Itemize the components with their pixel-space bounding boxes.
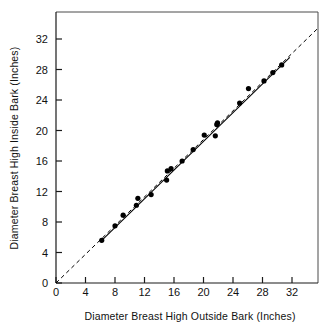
data-point [135,196,140,201]
x-axis-title: Diameter Breast High Outside Bark (Inche… [84,310,295,322]
data-point [191,147,196,152]
data-point [121,213,126,218]
data-point [202,132,207,137]
y-tick-label: 8 [42,216,48,228]
y-tick-label: 0 [42,277,48,289]
data-point [99,238,104,243]
data-point [261,78,266,83]
data-point [270,70,275,75]
chart-canvas: 0 4 8 12 16 20 24 28 32 0 4 8 12 16 20 2… [0,0,334,330]
x-tick-label: 4 [82,286,88,298]
x-axis-tick-labels: 0 4 8 12 16 20 24 28 32 [53,286,298,298]
y-tick-label: 12 [36,186,48,198]
data-point [237,100,242,105]
data-point [279,62,284,67]
one-to-one-reference-line [56,28,318,283]
one-to-one-reference-line [56,28,318,283]
data-point [164,177,169,182]
y-axis-ticks [56,39,62,283]
x-tick-label: 8 [112,286,118,298]
data-point [213,133,218,138]
y-tick-label: 20 [36,125,48,137]
data-point [134,203,139,208]
x-tick-label: 12 [138,286,150,298]
x-tick-label: 20 [197,286,209,298]
plot-frame [56,12,318,283]
axis-lines [56,12,318,283]
x-tick-label: 16 [168,286,180,298]
data-point [112,223,117,228]
y-axis-tick-labels: 0 4 8 12 16 20 24 28 32 [36,33,48,289]
x-axis-ticks [56,277,292,283]
x-tick-label: 24 [227,286,239,298]
data-point [180,158,185,163]
y-tick-label: 16 [36,155,48,167]
y-tick-label: 28 [36,64,48,76]
data-point [168,166,173,171]
y-tick-label: 24 [36,94,48,106]
y-tick-label: 32 [36,33,48,45]
data-point [149,192,154,197]
x-tick-label: 28 [256,286,268,298]
data-point [215,120,220,125]
x-tick-label: 32 [286,286,298,298]
y-axis-title: Diameter Breast High Inside Bark (Inches… [8,47,20,250]
x-tick-label: 0 [53,286,59,298]
y-tick-label: 4 [42,247,48,259]
scatter-plot-figure: 0 4 8 12 16 20 24 28 32 0 4 8 12 16 20 2… [0,0,334,330]
data-point [246,86,251,91]
